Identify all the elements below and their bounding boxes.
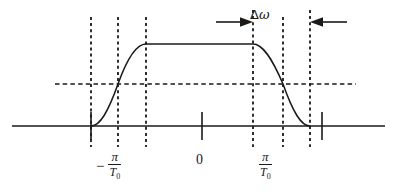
denominator-subscript: 0 <box>267 173 271 182</box>
negative-cutoff-label: −πT0 <box>96 150 122 182</box>
response-curve <box>91 44 310 126</box>
fraction-numerator: π <box>258 150 273 164</box>
delta-omega-arrow-right <box>310 17 347 27</box>
denominator-base: T <box>260 165 267 179</box>
minus-sign: − <box>96 158 107 175</box>
delta-omega-label: Δω <box>250 7 270 23</box>
pi-over-T0-fraction: πT0 <box>258 150 273 182</box>
fraction-denominator: T0 <box>258 165 273 181</box>
omega-symbol: ω <box>259 7 270 22</box>
fraction-numerator: π <box>107 150 122 164</box>
delta-omega-arrow-left <box>216 17 253 27</box>
fraction-denominator: T0 <box>107 165 122 181</box>
figure-canvas: Δω −πT0 0 πT0 <box>0 0 397 194</box>
pi-over-T0-fraction: πT0 <box>107 150 122 182</box>
positive-cutoff-label: πT0 <box>258 150 273 182</box>
origin-label: 0 <box>196 152 203 168</box>
delta-symbol: Δ <box>250 7 259 22</box>
denominator-subscript: 0 <box>116 173 120 182</box>
